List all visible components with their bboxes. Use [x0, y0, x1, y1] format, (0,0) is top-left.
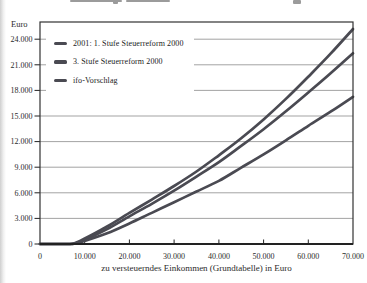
y-tick-label: 12.000: [11, 137, 33, 146]
legend-label: 3. Stufe Steuerreform 2000: [73, 57, 163, 66]
series-3-line-marker-icon: [54, 79, 67, 83]
y-tick-label: 24.000: [11, 35, 33, 44]
x-tick-label: 20.000: [118, 252, 140, 261]
y-tick-label: 18.000: [11, 86, 33, 95]
series-2-line-marker-icon: [54, 60, 67, 64]
y-tick-label: 0: [29, 240, 33, 249]
x-tick-label: 30.000: [163, 252, 185, 261]
legend-label: ifo-Vorschlag: [73, 76, 118, 85]
series-1-line-marker-icon: [54, 42, 67, 46]
legend-label: 2001: 1. Stufe Steuerreform 2000: [73, 39, 184, 48]
x-tick-label: 50.000: [253, 252, 275, 261]
y-tick-label: 6.000: [15, 189, 33, 198]
x-axis-title: zu versteuerndes Einkommen (Grundtabelle…: [40, 263, 353, 273]
x-tick-label: 0: [38, 252, 42, 261]
x-tick-label: 70.000: [342, 252, 364, 261]
legend-item: 2001: 1. Stufe Steuerreform 2000: [54, 34, 184, 53]
y-tick-label: 9.000: [15, 163, 33, 172]
chart-legend: 2001: 1. Stufe Steuerreform 2000 3. Stuf…: [46, 32, 194, 92]
legend-item: 3. Stufe Steuerreform 2000: [54, 53, 184, 72]
legend-item: ifo-Vorschlag: [54, 71, 184, 90]
y-tick-label: 15.000: [11, 112, 33, 121]
y-tick-label: 21.000: [11, 61, 33, 70]
x-tick-label: 60.000: [297, 252, 319, 261]
y-tick-label: 3.000: [15, 214, 33, 223]
x-tick-label: 10.000: [74, 252, 96, 261]
x-tick-label: 40.000: [208, 252, 230, 261]
